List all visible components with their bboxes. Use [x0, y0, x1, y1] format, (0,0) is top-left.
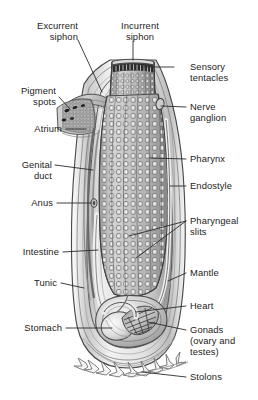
label-endostyle: Endostyle	[190, 180, 256, 191]
label-nerve-ganglion: Nerve ganglion	[190, 101, 258, 123]
label-mantle: Mantle	[190, 267, 256, 278]
label-genital-duct: Genital duct	[0, 159, 52, 181]
label-stolons: Stolons	[190, 371, 256, 382]
label-intestine: Intestine	[0, 246, 59, 257]
label-sensory-tentacles: Sensory tentacles	[190, 61, 258, 83]
visceral-mass-shape	[96, 295, 167, 347]
figure-canvas: Excurrent siphon Pigment spots Atrium Ge…	[0, 0, 258, 400]
label-heart: Heart	[190, 300, 256, 311]
label-pigment-spots: Pigment spots	[0, 85, 56, 107]
label-atrium: Atrium	[0, 123, 62, 134]
label-pharyngeal-slits: Pharyngeal slits	[190, 215, 258, 237]
label-anus: Anus	[0, 197, 53, 208]
label-pharynx: Pharynx	[190, 153, 256, 164]
label-stomach: Stomach	[0, 322, 62, 333]
label-incurrent-siphon: Incurrent siphon	[105, 20, 175, 42]
label-excurrent-siphon: Excurrent siphon	[0, 20, 78, 42]
label-tunic: Tunic	[0, 277, 57, 288]
incurrent-siphon-shape	[110, 59, 155, 98]
label-gonads: Gonads (ovary and testes)	[190, 324, 258, 358]
anus-shape	[91, 199, 97, 207]
